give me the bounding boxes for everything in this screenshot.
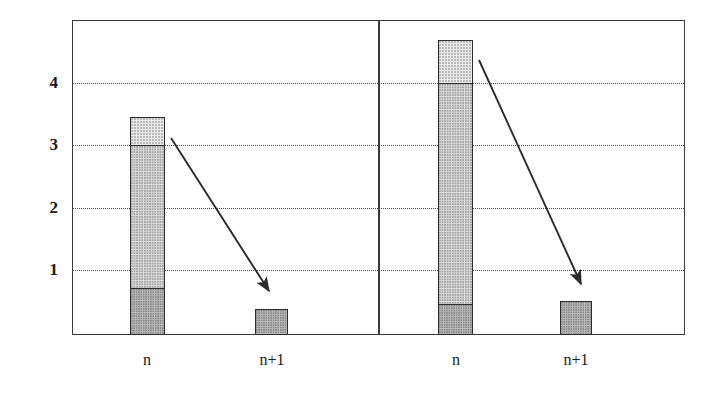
- bar-right-nplus1: [560, 301, 592, 335]
- y-axis-tick-labels: 4 3 2 1: [0, 0, 58, 396]
- bar-segment-upper: [131, 118, 164, 146]
- y-tick-label-1: 1: [32, 261, 58, 278]
- bar-segment-middle: [131, 146, 164, 289]
- bar-right-n: [438, 40, 473, 335]
- bar-left-n: [130, 117, 165, 335]
- bar-segment-lower: [439, 305, 472, 334]
- bar-segment-single: [561, 302, 591, 334]
- x-label-right-n: n: [416, 352, 496, 368]
- chart-figure: 4 3 2 1 n: [0, 0, 716, 396]
- bar-left-nplus1: [255, 309, 288, 335]
- y-tick-label-2: 2: [32, 199, 58, 216]
- bar-segment-lower: [131, 289, 164, 334]
- x-label-right-nplus1: n+1: [536, 352, 616, 368]
- x-label-left-n: n: [107, 352, 187, 368]
- y-tick-label-4: 4: [32, 74, 58, 91]
- bar-segment-single: [256, 310, 287, 334]
- bar-segment-middle: [439, 84, 472, 305]
- bar-segment-upper: [439, 41, 472, 84]
- y-tick-label-3: 3: [32, 136, 58, 153]
- x-label-left-nplus1: n+1: [232, 352, 312, 368]
- panel-divider: [378, 20, 380, 335]
